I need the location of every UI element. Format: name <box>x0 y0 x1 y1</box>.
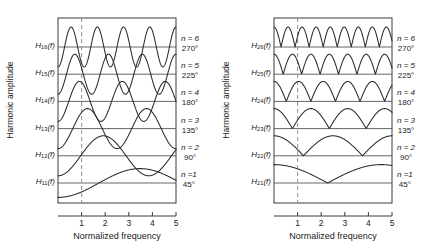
x-tick-label: 1 <box>76 218 88 228</box>
x-axis-label-right: Normalized frequency <box>274 231 392 241</box>
trace-label: H24(f) <box>251 95 271 104</box>
annotation-order: n = 6 <box>397 34 415 44</box>
x-tick-label: 1 <box>292 218 304 228</box>
waveform-trace <box>274 109 392 129</box>
trace-label: H14(f) <box>35 95 55 104</box>
harmonic-annotation: n = 290° <box>397 143 415 163</box>
annotation-order: n = 6 <box>181 34 199 44</box>
annotation-order: n = 4 <box>397 88 415 98</box>
trace-label: H11(f) <box>36 177 55 186</box>
annotation-phase: 90° <box>181 153 199 163</box>
annotation-order: n = 2 <box>397 143 415 153</box>
trace-label: H26(f) <box>251 41 271 50</box>
harmonic-annotation: n = 6270° <box>181 34 199 54</box>
x-tick-label: 2 <box>99 218 111 228</box>
annotation-order: n = 5 <box>181 61 199 71</box>
harmonic-annotation: n = 290° <box>181 143 199 163</box>
annotation-phase: 180° <box>181 98 199 108</box>
trace-label: H22(f) <box>251 150 271 159</box>
figure-harmonic-amplitude: Harmonic amplitude H16(f)H15(f)H14(f)H13… <box>0 0 432 252</box>
annotation-order: n = 5 <box>397 61 415 71</box>
trace-label: H13(f) <box>35 123 55 132</box>
harmonic-annotation: n = 3135° <box>397 116 415 136</box>
x-tick-label: 5 <box>170 218 182 228</box>
harmonic-annotation: n = 6270° <box>397 34 415 54</box>
waveform-trace <box>274 165 392 183</box>
harmonic-annotation: n = 4180° <box>181 88 199 108</box>
x-tick-label: 2 <box>315 218 327 228</box>
annotation-order: n = 3 <box>397 116 415 126</box>
annotation-phase: 45° <box>397 180 413 190</box>
trace-label: H21(f) <box>251 177 271 186</box>
annotation-phase: 225° <box>397 71 415 81</box>
annotation-phase: 180° <box>397 98 415 108</box>
annotation-order: n = 4 <box>181 88 199 98</box>
x-tick-label: 3 <box>339 218 351 228</box>
waveform-trace <box>274 54 392 74</box>
trace-label: H15(f) <box>35 68 55 77</box>
trace-label: H25(f) <box>251 68 271 77</box>
annotation-phase: 135° <box>181 126 199 136</box>
panel-right: Harmonic amplitude H26(f)H25(f)H24(f)H23… <box>216 0 432 252</box>
trace-label: H12(f) <box>35 150 55 159</box>
annotation-phase: 225° <box>181 71 199 81</box>
trace-label: H23(f) <box>251 123 271 132</box>
waveform-trace <box>274 27 392 47</box>
panel-left: Harmonic amplitude H16(f)H15(f)H14(f)H13… <box>0 0 216 252</box>
annotation-phase: 270° <box>397 44 415 54</box>
x-tick-label: 4 <box>362 218 374 228</box>
annotation-phase: 45° <box>181 180 197 190</box>
x-tick-label: 5 <box>386 218 398 228</box>
plot-frame <box>274 18 392 203</box>
annotation-phase: 135° <box>397 126 415 136</box>
harmonic-annotation: n = 5225° <box>397 61 415 81</box>
harmonic-annotation: n = 4180° <box>397 88 415 108</box>
harmonic-annotation: n =145° <box>181 170 197 190</box>
harmonic-annotation: n = 3135° <box>181 116 199 136</box>
waveform-trace <box>274 136 392 156</box>
annotation-order: n = 3 <box>181 116 199 126</box>
annotation-phase: 90° <box>397 153 415 163</box>
harmonic-annotation: n =145° <box>397 170 413 190</box>
annotation-order: n =1 <box>397 170 413 180</box>
x-axis-label-left: Normalized frequency <box>58 231 176 241</box>
harmonic-annotation: n = 5225° <box>181 61 199 81</box>
annotation-order: n =1 <box>181 170 197 180</box>
trace-label: H16(f) <box>35 41 55 50</box>
annotation-order: n = 2 <box>181 143 199 153</box>
x-tick-label: 4 <box>146 218 158 228</box>
x-tick-label: 3 <box>123 218 135 228</box>
annotation-phase: 270° <box>181 44 199 54</box>
waveform-trace <box>274 81 392 101</box>
